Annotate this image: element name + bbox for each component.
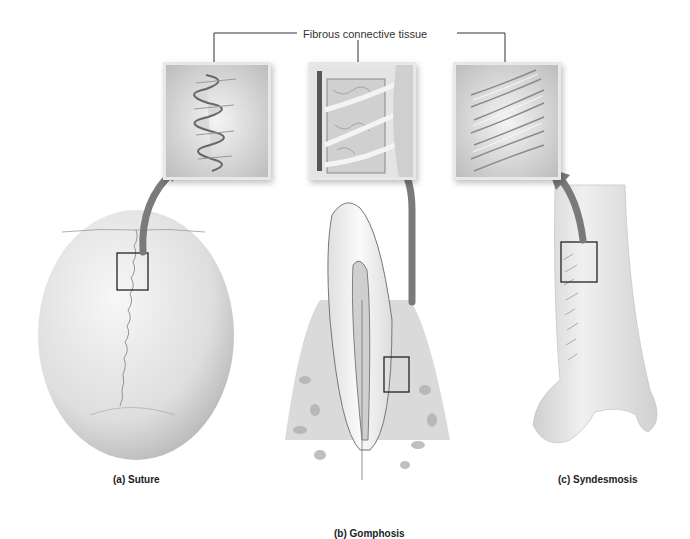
skull-illustration [38,158,234,460]
periodontal-ligament-icon [311,65,413,177]
caption-gomphosis: (b) Gomphosis [334,528,405,539]
interosseous-membrane-icon [456,65,558,177]
callout-label: Fibrous connective tissue [300,28,430,40]
caption-syndesmosis: (c) Syndesmosis [558,474,637,485]
inset-gomphosis [308,62,416,180]
tibia-fibula-illustration [533,168,657,443]
inset-suture [163,62,271,180]
inset-syndesmosis [453,62,561,180]
suture-fibers-icon [166,65,268,177]
caption-suture: (a) Suture [113,474,160,485]
tooth-illustration [285,150,450,480]
